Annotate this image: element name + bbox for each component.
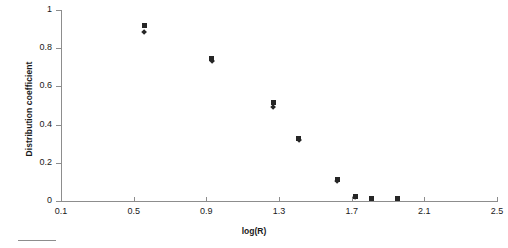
plot-area <box>61 10 497 201</box>
footer-rule <box>18 240 56 241</box>
x-tick-label: 2.1 <box>402 207 446 216</box>
x-tick-label: 1.7 <box>330 207 374 216</box>
y-tick-label: 0.4 <box>0 120 52 129</box>
x-tick-label: 0.5 <box>112 207 156 216</box>
y-tick-label: 0.2 <box>0 158 52 167</box>
scatter-chart-figure: Distribution coefficient 00.20.40.60.81 … <box>0 0 508 248</box>
y-tick-label: 0.6 <box>0 81 52 90</box>
x-tick-label: 2.5 <box>475 207 508 216</box>
y-tick-label: 0 <box>0 196 52 205</box>
y-tick-label: 0.8 <box>0 43 52 52</box>
x-tick-label: 0.1 <box>39 207 83 216</box>
x-tick-mark <box>497 197 498 202</box>
x-tick-label: 1.3 <box>257 207 301 216</box>
x-tick-label: 0.9 <box>184 207 228 216</box>
y-tick-label: 1 <box>0 5 52 14</box>
x-axis-title: log(R) <box>0 226 508 236</box>
